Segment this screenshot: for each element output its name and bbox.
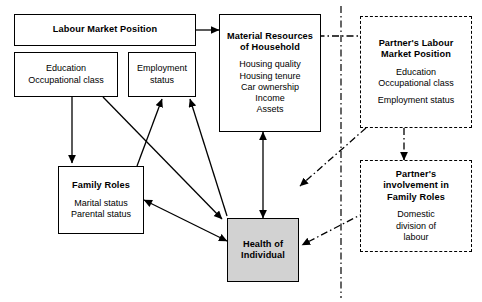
partner-lmp-item-3: Employment status <box>378 95 455 106</box>
employment-item-2: status <box>150 75 174 86</box>
family-roles-item-2: Parental status <box>71 209 131 220</box>
health-title-line2: Individual <box>241 250 285 261</box>
partner-lmp-item-1: Education <box>396 67 436 78</box>
employment-item-1: Employment <box>137 63 187 74</box>
material-resources-title-line1: Material Resources <box>227 31 313 42</box>
partner-roles-title-line3: Family Roles <box>387 192 445 203</box>
material-resources-item-4: Income <box>255 93 285 104</box>
box-education[interactable]: Education Occupational class <box>14 52 118 97</box>
box-partner-labour-market-position[interactable]: Partner's Labour Market Position Educati… <box>360 16 472 128</box>
box-family-roles[interactable]: Family Roles Marital status Parental sta… <box>58 166 144 234</box>
connector-family-roles-health-bidirectional <box>144 200 227 241</box>
material-resources-item-3: Car ownership <box>241 82 299 93</box>
partner-roles-title-line1: Partner's <box>396 169 436 180</box>
partner-lmp-item-2: Occupational class <box>378 78 454 89</box>
family-roles-title: Family Roles <box>72 180 130 191</box>
box-material-resources[interactable]: Material Resources of Household Housing … <box>219 14 321 132</box>
material-resources-item-1: Housing quality <box>239 59 301 70</box>
partner-lmp-title-line2: Market Position <box>381 49 451 60</box>
family-roles-item-1: Marital status <box>74 198 128 209</box>
connector-partner-roles-to-health <box>302 212 366 245</box>
education-item-2: Occupational class <box>28 75 104 86</box>
diagram-canvas: Labour Market Position Education Occupat… <box>0 0 482 302</box>
partner-roles-item-3: labour <box>403 232 428 243</box>
box-employment-status[interactable]: Employment status <box>128 52 196 97</box>
material-resources-item-5: Assets <box>256 104 283 115</box>
partner-roles-item-2: division of <box>396 221 436 232</box>
connector-family-roles-to-employment <box>137 99 162 166</box>
partner-roles-item-1: Domestic <box>397 209 435 220</box>
material-resources-title-line2: of Household <box>240 42 300 53</box>
connector-partner-lmp-to-health <box>300 128 366 186</box>
partner-lmp-title-line1: Partner's Labour <box>379 38 454 49</box>
health-title-line1: Health of <box>243 239 283 250</box>
material-resources-item-2: Housing tenure <box>239 71 300 82</box>
box-partner-involvement-family-roles[interactable]: Partner's involvement in Family Roles Do… <box>360 160 472 252</box>
labour-market-position-title: Labour Market Position <box>53 24 157 35</box>
box-health-of-individual[interactable]: Health of Individual <box>227 218 299 282</box>
partner-roles-title-line2: involvement in <box>383 180 449 191</box>
box-labour-market-position[interactable]: Labour Market Position <box>14 14 196 46</box>
education-item-1: Education <box>46 63 86 74</box>
